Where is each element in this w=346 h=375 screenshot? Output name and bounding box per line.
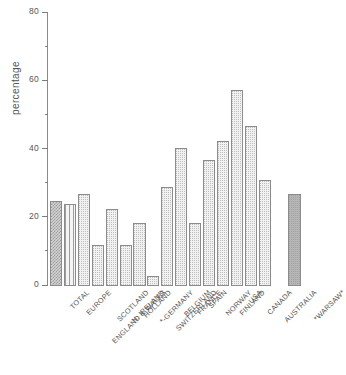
bar [161,187,173,286]
y-minor-tick-30 [0,183,48,184]
bar [78,194,90,286]
bar [217,141,229,286]
y-tick-label: 40 [29,143,39,154]
y-axis-title: percentage [10,43,24,133]
y-minor-tick-50 [0,114,48,115]
bar [189,223,201,286]
bar [231,90,243,286]
y-tick-label: 0 [34,279,39,290]
bar [245,126,257,286]
bar [106,209,118,286]
bar [259,180,271,286]
y-tick-80: 80 [0,12,48,13]
x-axis-labels: TOTALEUROPEENGLAND & WALESSCOTLANDN. IRE… [48,286,310,375]
y-minor-tick-10 [0,251,48,252]
y-tick-40: 40 [0,149,48,150]
bar [288,194,300,286]
bar [120,245,132,286]
y-tick-0: 0 [0,285,48,286]
bar [50,201,62,286]
bar [133,223,145,286]
y-tick-label: 80 [29,6,39,17]
y-minor-tick-70 [0,46,48,47]
bar [147,276,159,286]
bar [175,148,187,286]
bar [203,160,215,286]
bar [64,204,76,286]
y-tick-label: 60 [29,74,39,85]
bars-group [48,12,310,286]
y-tick-60: 60 [0,80,48,81]
bar [92,245,104,286]
y-tick-20: 20 [0,217,48,218]
y-tick-label: 20 [29,211,39,222]
